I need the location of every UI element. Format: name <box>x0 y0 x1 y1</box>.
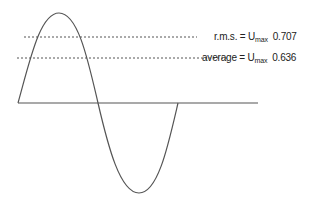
average-value: 0.636 <box>272 52 296 63</box>
rms-label: r.m.s. = Umax0.707 <box>214 31 297 43</box>
average-prefix: average = U <box>202 52 255 63</box>
rms-value: 0.707 <box>273 31 297 42</box>
average-subscript: max <box>255 57 268 64</box>
average-label: average = Umax0.636 <box>202 52 296 64</box>
rms-prefix: r.m.s. = U <box>214 31 255 42</box>
rms-subscript: max <box>255 36 268 43</box>
